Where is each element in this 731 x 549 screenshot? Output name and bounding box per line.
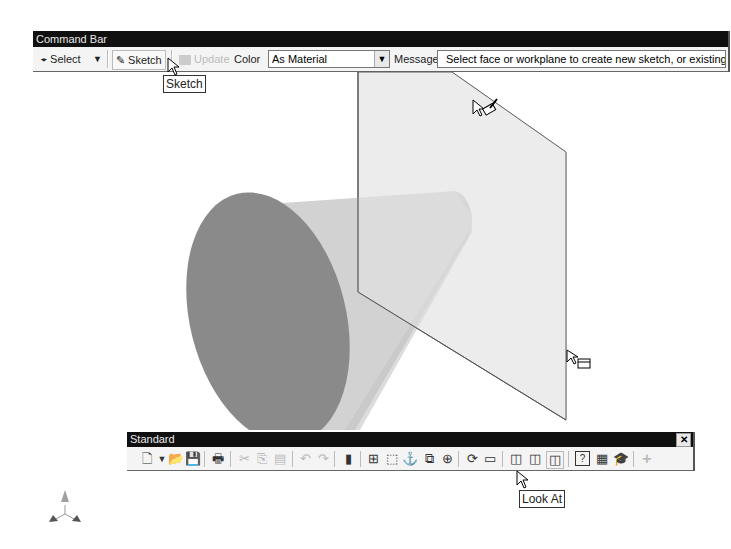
new-icon[interactable]: 🗋 xyxy=(139,451,155,467)
print-icon[interactable]: 🖶 xyxy=(210,451,226,467)
cut-icon[interactable]: ✂ xyxy=(236,451,252,467)
copy-icon[interactable]: ⎘ xyxy=(254,451,270,467)
wireframe-display-icon[interactable]: ◫ xyxy=(546,451,564,469)
hidden-edge-display-icon[interactable]: ◫ xyxy=(527,451,543,467)
close-icon[interactable]: ✕ xyxy=(676,433,691,447)
save-icon[interactable]: 💾 xyxy=(185,451,201,467)
separator xyxy=(502,451,503,467)
calculator-icon[interactable]: ▦ xyxy=(594,451,610,467)
separator xyxy=(334,451,335,467)
look-at-cursor-icon xyxy=(567,350,590,368)
standard-toolbar-title[interactable]: Standard xyxy=(127,432,693,447)
pan-icon[interactable]: ⚓ xyxy=(402,451,418,467)
zoom-window-icon[interactable]: ⬚ xyxy=(384,451,400,467)
rotate-icon[interactable]: ⟳ xyxy=(464,451,480,467)
add-icon[interactable]: + xyxy=(639,451,655,467)
separator xyxy=(633,451,634,467)
help-icon[interactable]: ? xyxy=(575,451,590,466)
separator xyxy=(204,451,205,467)
redo-icon[interactable]: ↷ xyxy=(315,451,331,467)
open-icon[interactable]: 📂 xyxy=(168,451,184,467)
tutorial-icon[interactable]: 🎓 xyxy=(613,451,629,467)
standard-toolbar: Standard ✕ 🗋 ▼ 📂 💾 🖶 ✂ ⎘ ▤ ↶ ↷ ▮ ⊞ ⬚ ⚓ ⧉… xyxy=(127,432,695,471)
look-at-icon[interactable]: ▭ xyxy=(482,451,498,467)
parts-icon[interactable]: ▮ xyxy=(340,451,356,467)
separator xyxy=(360,451,361,467)
undo-icon[interactable]: ↶ xyxy=(297,451,313,467)
separator xyxy=(230,451,231,467)
mouse-cursor-icon xyxy=(516,470,530,490)
zoom-selected-icon[interactable]: ⧉ xyxy=(421,451,437,467)
zoom-icon[interactable]: ⊕ xyxy=(439,451,455,467)
paste-icon[interactable]: ▤ xyxy=(272,451,288,467)
separator xyxy=(458,451,459,467)
separator xyxy=(292,451,293,467)
zoom-all-icon[interactable]: ⊞ xyxy=(365,451,381,467)
look-at-tooltip: Look At xyxy=(519,490,565,508)
separator xyxy=(568,451,569,467)
shaded-display-icon[interactable]: ◫ xyxy=(508,451,524,467)
axis-triad-icon xyxy=(49,490,81,522)
